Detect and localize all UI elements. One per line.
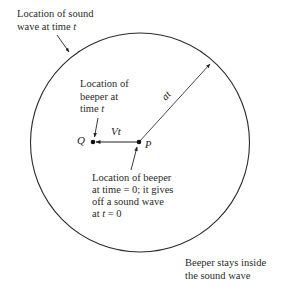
- at-radius-arrow: [139, 64, 210, 142]
- point-q-label: Q: [77, 134, 85, 146]
- point-p-dot: [137, 140, 142, 145]
- time-variable: t: [73, 21, 76, 32]
- beeper-t-line1: Location of: [80, 78, 129, 91]
- beeper-0-line4: at t = 0: [92, 208, 173, 220]
- beeper-t-line2: beeper at: [80, 91, 129, 104]
- sound-wave-label: Location of sound wave at time t: [17, 8, 93, 33]
- diagram-canvas: [0, 0, 282, 287]
- point-p-label: P: [145, 139, 151, 150]
- sound-wave-label-line2-text: wave at time: [17, 21, 73, 32]
- beeper-t-pointer-arrow: [95, 118, 99, 137]
- beeper-t-line3: time t: [80, 103, 129, 116]
- beeper-0-line3: off a sound wave: [92, 196, 173, 208]
- beeper-at-time-t-label: Location of beeper at time t: [80, 78, 129, 116]
- stays-inside-line2: the sound wave: [185, 269, 266, 282]
- beeper-0-line1: Location of beeper: [92, 172, 173, 184]
- beeper-0-line4-suffix: = 0: [105, 208, 121, 219]
- time-variable: t: [101, 103, 104, 114]
- beeper-0-line2: at time = 0; it gives: [92, 184, 173, 196]
- vt-label: Vt: [111, 125, 121, 137]
- beeper-at-time-0-label: Location of beeper at time = 0; it gives…: [92, 172, 173, 220]
- sound-wave-pointer-arrow: [57, 35, 69, 52]
- beeper-0-pointer-arrow: [131, 147, 137, 170]
- beeper-stays-inside-label: Beeper stays inside the sound wave: [185, 256, 266, 282]
- sound-wave-label-line2: wave at time t: [17, 21, 93, 34]
- stays-inside-line1: Beeper stays inside: [185, 256, 266, 269]
- point-q-dot: [91, 140, 96, 145]
- sound-wave-label-line1: Location of sound: [17, 8, 93, 21]
- beeper-t-line3-text: time: [80, 103, 101, 114]
- beeper-0-line4-prefix: at: [92, 208, 102, 219]
